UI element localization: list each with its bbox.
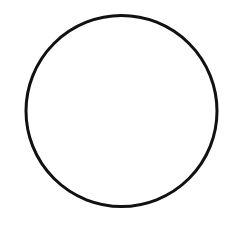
circle-shape [26,16,217,207]
diagram-svg [0,0,238,241]
diagram-canvas [0,0,238,241]
